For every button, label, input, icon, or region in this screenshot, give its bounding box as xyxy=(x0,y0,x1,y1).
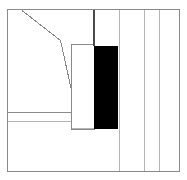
inner-panel xyxy=(72,45,95,130)
black-block xyxy=(94,46,118,130)
technical-line-drawing xyxy=(0,0,187,180)
drawing-canvas xyxy=(0,0,187,180)
